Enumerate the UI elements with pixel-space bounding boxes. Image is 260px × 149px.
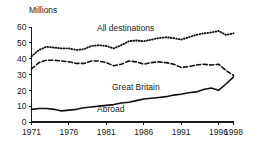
y-tick-label: 20 <box>17 86 27 96</box>
y-tick-label: 60 <box>17 22 27 32</box>
x-tick-label: 1998 <box>224 127 243 137</box>
series-line-all-destinations <box>32 31 234 56</box>
x-tick-label: 1986 <box>134 127 153 137</box>
x-tick-label: 1976 <box>59 127 78 137</box>
y-tick-label: 30 <box>17 70 27 80</box>
chart-container: 0102030405060 19711976198119861991199619… <box>0 0 260 149</box>
y-tick-label: 10 <box>17 101 27 111</box>
series-line-great-britain <box>32 60 234 75</box>
y-tick-label: 40 <box>17 54 27 64</box>
series-label-all-destinations: All destinations <box>97 23 154 33</box>
x-tick-label: 1981 <box>97 127 116 137</box>
y-axis-title: Millions <box>29 5 57 15</box>
x-tick-label: 1991 <box>172 127 191 137</box>
series-label-abroad: Abroad <box>97 104 125 114</box>
y-tick-label: 50 <box>17 38 27 48</box>
data-series-group <box>32 31 234 111</box>
line-chart: 0102030405060 19711976198119861991199619… <box>0 0 260 149</box>
series-annotations: All destinationsGreat BritainAbroad <box>97 23 160 114</box>
x-tick-label: 1971 <box>22 127 41 137</box>
x-axis-tick-labels: 1971197619811986199119961998 <box>22 127 243 137</box>
series-label-great-britain: Great Britain <box>112 82 160 92</box>
y-axis-tick-labels: 0102030405060 <box>17 22 27 127</box>
